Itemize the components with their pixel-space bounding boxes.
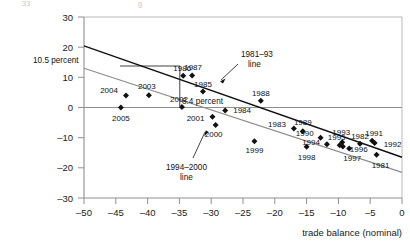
x-axis-tick-labels: –50 –45 –40 –35 –30 –25 –20 –15 –10 –5 0 [76,207,405,218]
x-axis-title: trade balance (nominal) [302,227,402,238]
x-tick-label: –20 [267,207,283,218]
data-point-label: 2001 [187,114,205,123]
y-tick-label: 20 [62,42,73,53]
y-tick-label: 30 [62,12,73,23]
x-tick-label: –15 [299,207,315,218]
data-point-label: 1998 [298,153,316,162]
x-tick-label: –10 [330,207,346,218]
y-tick-label: –30 [57,193,73,204]
annotation-1981-93-line-1: 1981–93 [241,50,273,59]
annotation-leaders [120,64,238,158]
data-point-label: 2004 [100,86,118,95]
data-point-label: 2005 [112,114,130,123]
data-point-marker [123,92,129,98]
x-tick-label: –25 [235,207,251,218]
x-tick-label: –35 [171,207,187,218]
y-tick-label: –20 [57,162,73,173]
data-point-label: 1981 [372,161,390,170]
x-tick-label: –30 [203,207,219,218]
data-point: 1987 [184,63,202,79]
data-point-marker [258,98,264,104]
data-point: 2000 [205,122,223,139]
data-point-marker [374,152,380,158]
x-tick-label: –5 [365,207,376,218]
y-tick-label: 10 [62,72,73,83]
data-point-marker [189,73,195,79]
chart-container: 33 g 30 20 10 0 –10 –20 –30 [0,0,410,241]
annotation-10-5-percent: 10.5 percent [33,56,79,65]
data-point: 2001 [187,114,216,123]
data-point: 1981 [372,152,390,170]
data-point-label: 2000 [205,130,223,139]
data-point-marker [118,105,124,111]
leader-1981-93-line [221,64,238,80]
data-point-marker [251,138,257,144]
data-point: 2004 [100,86,129,98]
leader-1994-2000-line [193,132,205,158]
data-point-marker [222,108,228,114]
y-axis-tick-labels: 30 20 10 0 –10 –20 –30 [57,12,73,204]
data-point-label: 1985 [194,80,212,89]
data-point: 1985 [194,80,212,95]
x-tick-label: –40 [140,207,156,218]
y-tick-label: 0 [68,102,73,113]
data-point-marker [209,114,215,120]
data-point-label: 1991 [365,129,383,138]
data-point-label: 1990 [296,129,314,138]
x-axis-ticks [84,198,402,204]
ghost-text-left: 33 [22,0,31,8]
data-point-label: 1988 [252,89,270,98]
data-point-marker [180,73,186,79]
data-point: 1988 [252,89,270,104]
data-point-label: 2002 [170,95,188,104]
data-point: 1984 [222,106,251,115]
data-point-label: 1989 [294,118,312,127]
data-point-label: 2003 [138,82,156,91]
data-point: 2003 [138,82,156,98]
annotation-1981-93-line-2: line [248,60,261,69]
scatter-plot-svg: 33 g 30 20 10 0 –10 –20 –30 [0,0,410,241]
x-tick-label: –50 [76,207,92,218]
data-point-label: 1999 [246,146,264,155]
data-point-label: 1997 [343,154,361,163]
data-point-marker [200,89,206,95]
annotation-1994-2000-line-2: line [180,173,193,182]
data-point: 1999 [246,138,264,155]
data-point-label: 1992 [384,140,402,149]
data-point-label: 1987 [184,63,202,72]
data-points: 1981198219831984198519861987198819891990… [100,63,402,170]
data-point-label: 1995 [328,133,346,142]
x-tick-label: –45 [108,207,124,218]
data-point-label: 1983 [268,120,286,129]
data-point-label: 1984 [233,106,251,115]
ghost-text-mid: g [138,0,142,8]
annotation-8-4-percent: 8.4 percent [182,97,224,106]
data-point-marker [146,92,152,98]
y-tick-label: –10 [57,132,73,143]
annotation-1994-2000-line-1: 1994–2000 [166,163,207,172]
x-tick-label: 0 [399,207,404,218]
data-point-marker [213,122,219,128]
y-axis-ticks [78,17,84,198]
